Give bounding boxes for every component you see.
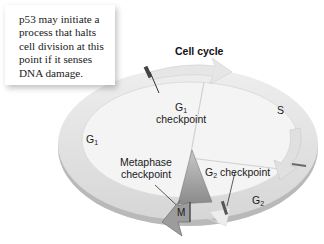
g2-phase-label: G2 — [252, 194, 264, 206]
g2-phase-label-base: G — [252, 194, 260, 206]
m-phase-label: M — [177, 207, 185, 219]
g1-checkpoint-label: G1 checkpoint — [156, 101, 206, 125]
g1-phase-label: G1 — [86, 133, 98, 145]
callout-line: DNA damage. — [19, 67, 115, 80]
g2-checkpoint-label-sub: 2 — [213, 172, 217, 179]
g1-phase-label-base: G — [86, 133, 94, 145]
p53-callout: p53 may initiate a process that halts ce… — [5, 5, 115, 85]
g1-checkpoint-label-base: G — [175, 101, 183, 113]
metaphase-checkpoint-line1: Metaphase — [120, 156, 172, 168]
callout-line: p53 may initiate a — [19, 13, 115, 26]
diagram-title: Cell cycle — [175, 45, 223, 57]
metaphase-checkpoint-label: Metaphase checkpoint — [120, 156, 172, 180]
g1-checkpoint-label-word: checkpoint — [156, 113, 206, 125]
metaphase-checkpoint-line2: checkpoint — [120, 168, 172, 180]
g2-checkpoint-label-base: G — [205, 166, 213, 178]
callout-line: cell division at this — [19, 40, 115, 53]
g2-checkpoint-label-word: checkpoint — [220, 166, 270, 178]
callout-line: point if it senses — [19, 53, 115, 66]
g1-phase-label-sub: 1 — [94, 139, 98, 146]
callout-line: process that halts — [19, 26, 115, 39]
s-phase-label: S — [277, 104, 284, 116]
g2-phase-label-sub: 2 — [260, 200, 264, 207]
g2-checkpoint-label: G2 checkpoint — [205, 166, 270, 178]
